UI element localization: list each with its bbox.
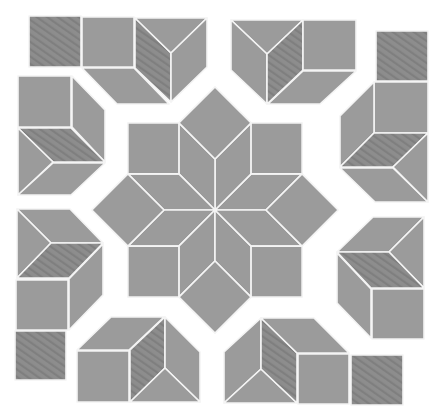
hatched-square bbox=[29, 16, 81, 67]
star-square bbox=[128, 246, 179, 297]
square bbox=[18, 76, 71, 127]
central-eight-pointed-star bbox=[92, 87, 338, 333]
hatched-square bbox=[376, 31, 428, 81]
hatched-square bbox=[351, 355, 403, 405]
square bbox=[77, 351, 129, 402]
square bbox=[298, 354, 349, 404]
square bbox=[16, 280, 68, 330]
hatched-square bbox=[15, 331, 66, 380]
star-square bbox=[251, 246, 302, 297]
square bbox=[303, 20, 356, 70]
square bbox=[372, 289, 424, 339]
star-square bbox=[128, 123, 179, 174]
star-square bbox=[251, 123, 302, 174]
quilt-pattern-canvas bbox=[0, 0, 440, 420]
square bbox=[82, 17, 134, 67]
square bbox=[374, 82, 428, 133]
